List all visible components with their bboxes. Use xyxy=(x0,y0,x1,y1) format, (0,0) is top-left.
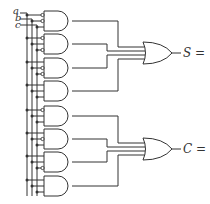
inversion-bubble-icon xyxy=(41,137,44,140)
junction-dot xyxy=(26,132,29,135)
or-input-wire xyxy=(72,21,145,47)
and-gate-5 xyxy=(44,106,68,126)
and-gate-6 xyxy=(44,129,68,149)
and-gate-3 xyxy=(44,58,68,78)
junction-dot xyxy=(36,191,39,194)
and-gate-8 xyxy=(44,176,68,196)
inversion-bubble-icon xyxy=(41,66,44,69)
junction-dot xyxy=(36,144,39,147)
and-gate-2 xyxy=(44,34,68,54)
or-input-wire xyxy=(72,155,145,186)
junction-dot xyxy=(31,115,34,118)
and-gate-1 xyxy=(44,11,68,31)
logic-circuit-diagram: a b c S = C = xyxy=(0,0,210,204)
inversion-bubble-icon xyxy=(41,108,44,111)
junction-dot xyxy=(36,73,39,76)
inversion-bubble-icon xyxy=(41,166,44,169)
input-label-c: c xyxy=(15,20,21,30)
inversion-bubble-icon xyxy=(41,72,44,75)
junction-dot xyxy=(26,109,29,112)
inversion-bubble-icon xyxy=(41,13,44,16)
inversion-bubble-icon xyxy=(41,48,44,51)
junction-dot xyxy=(36,96,39,99)
circuit-drawing xyxy=(0,0,210,204)
junction-dot xyxy=(31,138,34,141)
junction-dot xyxy=(31,161,34,164)
or-input-wire xyxy=(72,59,145,91)
junction-dot xyxy=(26,37,29,40)
output-label-sum: S = xyxy=(183,47,205,59)
junction-dot xyxy=(26,179,29,182)
inversion-bubble-icon xyxy=(41,19,44,22)
junction-dot xyxy=(26,84,29,87)
junction-dot xyxy=(26,14,29,17)
or-input-wire xyxy=(72,151,145,162)
or-gate-carry xyxy=(143,138,172,160)
junction-dot xyxy=(31,67,34,70)
junction-dot xyxy=(36,121,39,124)
junction-dot xyxy=(31,185,34,188)
junction-dot xyxy=(36,49,39,52)
or-input-wire xyxy=(72,55,145,68)
output-label-carry: C = xyxy=(183,143,206,155)
inversion-bubble-icon xyxy=(41,36,44,39)
junction-dot xyxy=(36,26,39,29)
and-gate-7 xyxy=(44,152,68,172)
junction-dot xyxy=(31,43,34,46)
junction-dot xyxy=(36,167,39,170)
junction-dot xyxy=(31,90,34,93)
junction-dot xyxy=(31,20,34,23)
junction-dot xyxy=(26,61,29,64)
or-gate-sum xyxy=(143,42,172,64)
and-gate-4 xyxy=(44,81,68,101)
junction-dot xyxy=(26,155,29,158)
